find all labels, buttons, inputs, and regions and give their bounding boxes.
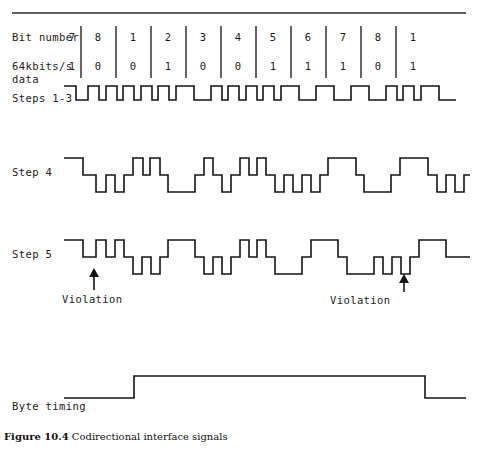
data-bit-cell: 0: [230, 60, 246, 72]
figure-caption: Figure 10.4 Codirectional interface sign…: [4, 431, 228, 442]
bit-number-cell: 4: [230, 31, 246, 43]
figure-caption-text: Codirectional interface signals: [69, 431, 228, 442]
bit-number-cell: 5: [265, 31, 281, 43]
row-label-step-5: Step 5: [12, 248, 52, 261]
bit-number-cell: 3: [195, 31, 211, 43]
waveform-step-5: [64, 240, 470, 274]
data-bit-cell: 1: [405, 60, 421, 72]
row-label-byte-timing: Byte timing: [12, 400, 86, 413]
bit-number-cell: 7: [335, 31, 351, 43]
data-bit-cell: 1: [300, 60, 316, 72]
data-bit-cell: 0: [195, 60, 211, 72]
bit-number-cell: 6: [300, 31, 316, 43]
row-label-step-4: Step 4: [12, 166, 52, 179]
row-label-data: data: [12, 73, 39, 86]
bit-number-cell: 1: [405, 31, 421, 43]
figure-caption-number: Figure 10.4: [4, 431, 69, 442]
data-bit-cell: 0: [370, 60, 386, 72]
waveform-byte-timing: [64, 376, 466, 398]
bit-number-cell: 8: [370, 31, 386, 43]
annotation-violation-right: Violation: [330, 294, 391, 306]
violation-arrow-right: [399, 274, 409, 292]
data-bit-cell: 1: [265, 60, 281, 72]
waveform-step-4: [64, 158, 470, 192]
violation-arrow-left: [89, 268, 99, 290]
bit-number-cell: 7: [64, 31, 80, 43]
bit-number-cell: 2: [160, 31, 176, 43]
waveform-steps-1-3: [64, 86, 456, 100]
data-bit-cell: 1: [335, 60, 351, 72]
row-label-steps-1-3: Steps 1-3: [12, 92, 73, 105]
bit-number-cell: 8: [90, 31, 106, 43]
data-bit-cell: 0: [125, 60, 141, 72]
figure-codirectional-interface-signals: Bit number 64kbits/s data Steps 1-3 Step…: [0, 0, 478, 450]
bit-number-cell: 1: [125, 31, 141, 43]
data-bit-cell: 1: [160, 60, 176, 72]
data-bit-cell: 1: [64, 60, 80, 72]
annotation-violation-left: Violation: [62, 293, 123, 305]
data-bit-cell: 0: [90, 60, 106, 72]
